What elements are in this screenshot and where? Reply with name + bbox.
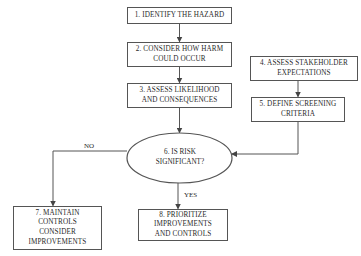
node-6-line-1: 6. IS RISK — [140, 148, 220, 158]
node-4-line-1: 4. ASSESS STAKEHOLDER — [260, 59, 348, 69]
node-7-line-2: CONTROLS — [38, 218, 77, 228]
node-7-line-4: IMPROVEMENTS — [29, 238, 87, 248]
node-2-line-2: COULD OCCUR — [153, 55, 205, 65]
node-7-maintain-controls: 7. MAINTAIN CONTROLS CONSIDER IMPROVEMEN… — [13, 206, 102, 250]
edge-label-no: NO — [84, 142, 94, 150]
node-2-line-1: 2. CONSIDER HOW HARM — [136, 45, 223, 55]
node-8-line-3: AND CONTROLS — [155, 230, 212, 240]
node-1-line-1: 1. IDENTIFY THE HAZARD — [135, 11, 225, 21]
node-2-consider-harm: 2. CONSIDER HOW HARM COULD OCCUR — [127, 42, 232, 67]
node-3-line-2: AND CONSEQUENCES — [142, 96, 218, 106]
node-5-screening-criteria: 5. DEFINE SCREENING CRITERIA — [251, 97, 345, 122]
node-4-line-2: EXPECTATIONS — [277, 69, 330, 79]
node-8-line-1: 8. PRIORITIZE — [159, 211, 207, 221]
arrow-6-to-7-no — [53, 151, 127, 206]
edge-label-yes: YES — [184, 191, 197, 199]
node-4-stakeholder-expectations: 4. ASSESS STAKEHOLDER EXPECTATIONS — [250, 56, 358, 81]
node-7-line-3: CONSIDER — [39, 228, 76, 238]
node-3-assess-likelihood: 3. ASSESS LIKELIHOOD AND CONSEQUENCES — [127, 83, 232, 108]
node-8-line-2: IMPROVEMENTS — [154, 220, 212, 230]
node-7-line-1: 7. MAINTAIN — [35, 209, 79, 219]
node-5-line-2: CRITERIA — [281, 110, 315, 120]
node-1-identify-hazard: 1. IDENTIFY THE HAZARD — [127, 7, 232, 24]
node-5-line-1: 5. DEFINE SCREENING — [260, 100, 337, 110]
node-3-line-1: 3. ASSESS LIKELIHOOD — [139, 86, 219, 96]
node-6-decision-risk-significant: 6. IS RISK SIGNIFICANT? — [140, 148, 220, 167]
node-8-prioritize-improvements: 8. PRIORITIZE IMPROVEMENTS AND CONTROLS — [138, 209, 228, 241]
arrow-5-to-6 — [232, 122, 298, 154]
node-6-line-2: SIGNIFICANT? — [140, 158, 220, 168]
